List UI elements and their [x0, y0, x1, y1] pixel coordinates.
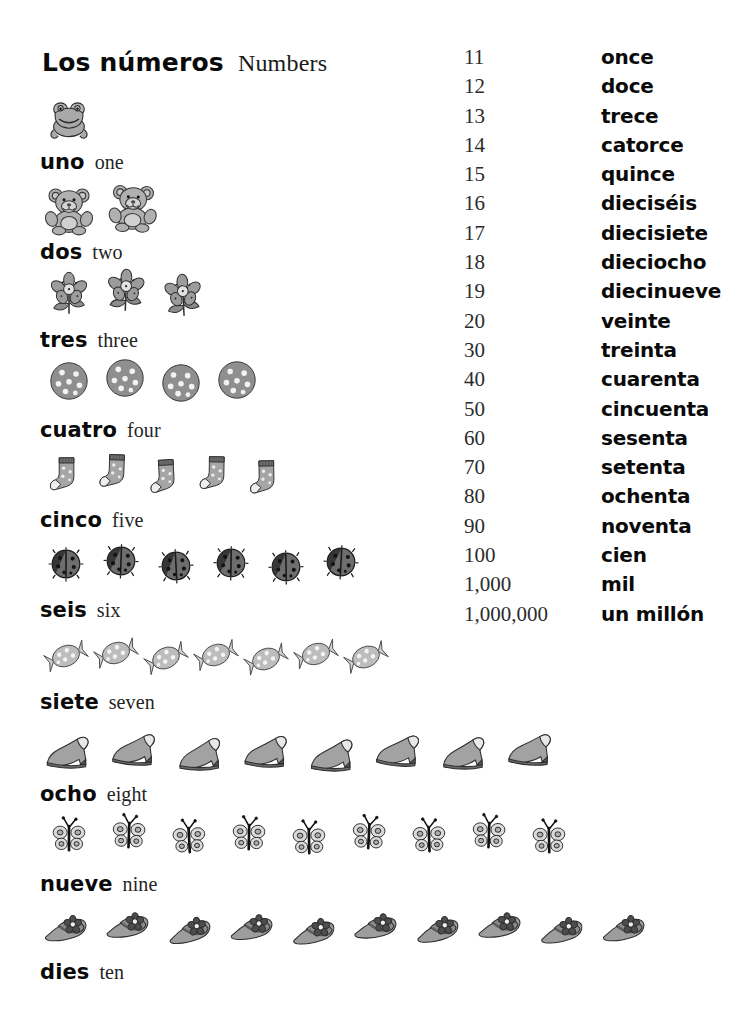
counting-label-spanish: cuatro [40, 418, 117, 442]
shoe-icon [109, 722, 161, 774]
flower-icon [102, 266, 150, 314]
counting-label-uno: unoone [40, 150, 124, 174]
counting-label-cuatro: cuatrofour [40, 418, 161, 442]
number-table-row: 15quince [464, 161, 744, 190]
counting-label-spanish: siete [40, 690, 99, 714]
shoe-icon [242, 725, 293, 776]
number-digits: 15 [464, 161, 485, 187]
counting-label-english: five [112, 509, 144, 532]
number-digits: 17 [464, 220, 485, 246]
number-word-spanish: trece [601, 103, 658, 129]
hat-icon [230, 901, 279, 950]
number-table-row: 60sesenta [464, 425, 744, 454]
number-digits: 11 [464, 44, 484, 70]
counting-label-english: ten [99, 961, 124, 984]
number-word-spanish: noventa [601, 513, 691, 539]
hat-icon [292, 905, 341, 954]
page-title-spanish: Los números [42, 48, 224, 77]
number-digits: 40 [464, 366, 485, 392]
number-table-row: 1,000,000un millón [464, 601, 744, 630]
number-word-spanish: mil [601, 571, 635, 597]
butterfly-icon [230, 815, 269, 854]
number-word-spanish: veinte [601, 308, 671, 334]
cookie-icon [159, 361, 203, 405]
counting-label-ocho: ochoeight [40, 782, 147, 806]
number-digits: 50 [464, 396, 485, 422]
ladybug-icon [268, 549, 305, 586]
candy-icon [194, 633, 239, 678]
teddy-bear-icon [107, 180, 159, 232]
number-digits: 70 [464, 454, 485, 480]
number-table: 11once12doce13trece14catorce15quince16di… [464, 44, 744, 630]
number-digits: 13 [464, 103, 485, 129]
counting-label-spanish: uno [40, 150, 85, 174]
counting-label-english: two [92, 241, 122, 264]
hat-icon [353, 899, 403, 949]
frog-icon [46, 96, 92, 142]
page-title: Los números Numbers [42, 48, 327, 77]
number-word-spanish: diecisiete [601, 220, 708, 246]
number-digits: 80 [464, 483, 485, 509]
number-digits: 14 [464, 132, 485, 158]
icon-row-nueve [50, 816, 590, 854]
number-word-spanish: catorce [601, 132, 684, 158]
number-table-row: 18dieciocho [464, 249, 744, 278]
counting-label-english: four [127, 419, 161, 442]
number-word-spanish: doce [601, 73, 654, 99]
number-word-spanish: dieciséis [601, 190, 697, 216]
number-table-row: 30treinta [464, 337, 744, 366]
counting-label-dos: dostwo [40, 240, 123, 264]
shoe-icon [175, 727, 228, 780]
counting-label-spanish: seis [40, 598, 87, 622]
number-word-spanish: cincuenta [601, 396, 709, 422]
hat-icon [44, 902, 92, 950]
number-table-row: 80ochenta [464, 483, 744, 512]
number-table-row: 12doce [464, 73, 744, 102]
counting-label-spanish: tres [40, 328, 88, 352]
number-digits: 12 [464, 73, 485, 99]
cookie-icon [216, 359, 259, 402]
sock-icon [95, 448, 141, 494]
counting-label-siete: sieteseven [40, 690, 155, 714]
hat-icon [602, 902, 650, 950]
cookie-icon [103, 356, 146, 399]
counting-label-english: one [95, 151, 124, 174]
number-table-row: 50cincuenta [464, 396, 744, 425]
butterfly-icon [530, 818, 569, 857]
shoe-icon [439, 726, 491, 778]
candy-icon [343, 634, 389, 680]
butterfly-icon [349, 813, 389, 853]
number-table-row: 13trece [464, 103, 744, 132]
icon-row-siete [44, 634, 394, 678]
number-word-spanish: quince [601, 161, 675, 187]
number-word-spanish: ochenta [601, 483, 690, 509]
number-word-spanish: cien [601, 542, 647, 568]
number-digits: 100 [464, 542, 496, 568]
number-digits: 19 [464, 278, 485, 304]
number-table-row: 16dieciséis [464, 190, 744, 219]
ladybug-icon [157, 547, 195, 585]
number-digits: 1,000 [464, 571, 511, 597]
candy-icon [93, 630, 139, 676]
number-table-row: 40cuarenta [464, 366, 744, 395]
butterfly-icon [169, 817, 209, 857]
counting-label-cinco: cincofive [40, 508, 143, 532]
number-table-row: 19diecinueve [464, 278, 744, 307]
icon-row-ocho [44, 726, 572, 776]
counting-label-spanish: cinco [40, 508, 102, 532]
candy-icon [143, 635, 189, 681]
counting-label-spanish: dos [40, 240, 82, 264]
number-digits: 90 [464, 513, 485, 539]
sock-icon [46, 452, 90, 496]
number-word-spanish: un millón [601, 601, 704, 627]
number-table-row: 70setenta [464, 454, 744, 483]
flower-icon [46, 270, 92, 316]
icon-row-uno [46, 96, 92, 142]
ladybug-icon [322, 543, 360, 581]
number-digits: 60 [464, 425, 485, 451]
number-word-spanish: cuarenta [601, 366, 700, 392]
flower-icon [159, 271, 207, 319]
butterfly-icon [109, 812, 148, 851]
counting-label-seis: seissix [40, 598, 120, 622]
sock-icon [145, 453, 191, 499]
